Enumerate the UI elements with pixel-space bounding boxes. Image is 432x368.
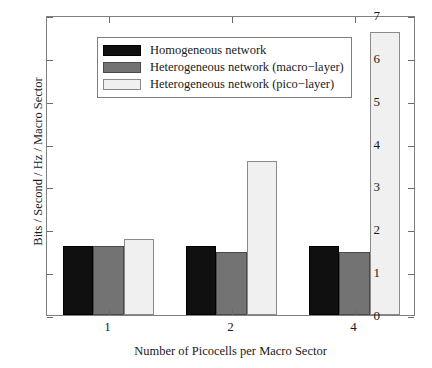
x-tick-top [355, 17, 356, 23]
legend-label-homogeneous: Homogeneous network [150, 44, 266, 57]
y-tick-right [408, 60, 414, 61]
y-tick [47, 317, 53, 318]
y-tick-label-2: 2 [358, 223, 380, 236]
x-tick-top [109, 17, 110, 23]
y-tick [47, 17, 53, 18]
x-tick [355, 309, 356, 315]
y-tick-right [408, 231, 414, 232]
y-tick [47, 103, 53, 104]
legend-label-pico-layer: Heterogeneous network (pico−layer) [150, 78, 334, 91]
bar-1-series-0 [63, 246, 94, 315]
y-axis-title: Bits / Second / Hz / Macro Sector [31, 42, 46, 282]
legend-swatch-homogeneous [103, 45, 141, 56]
legend: Homogeneous network Heterogeneous networ… [97, 37, 352, 98]
legend-item: Heterogeneous network (macro−layer) [103, 59, 344, 76]
bar-1-series-1 [93, 246, 124, 315]
x-tick-label-1: 1 [88, 320, 128, 334]
bar-4-series-1 [339, 252, 370, 315]
x-tick-top [232, 17, 233, 23]
y-tick [47, 188, 53, 189]
y-tick [47, 274, 53, 275]
y-tick-label-5: 5 [358, 95, 380, 108]
bar-2-series-0 [186, 246, 217, 315]
x-tick [232, 309, 233, 315]
x-tick-label-2: 2 [211, 320, 251, 334]
y-tick-right [408, 103, 414, 104]
y-tick-label-4: 4 [358, 138, 380, 151]
y-tick-right [408, 317, 414, 318]
y-tick-right [408, 188, 414, 189]
x-tick-label-4: 4 [334, 320, 374, 334]
bar-2-series-2 [247, 161, 278, 315]
y-tick-label-1: 1 [358, 266, 380, 279]
y-tick-right [408, 17, 414, 18]
legend-label-macro-layer: Heterogeneous network (macro−layer) [150, 61, 344, 74]
bar-4-series-0 [309, 246, 340, 315]
x-tick [109, 309, 110, 315]
legend-item: Heterogeneous network (pico−layer) [103, 76, 344, 93]
bar-1-series-2 [124, 239, 155, 315]
bar-2-series-1 [216, 252, 247, 315]
legend-item: Homogeneous network [103, 42, 344, 59]
y-tick [47, 60, 53, 61]
x-axis-title: Number of Picocells per Macro Sector [46, 344, 415, 359]
y-tick-label-6: 6 [358, 52, 380, 65]
legend-swatch-pico-layer [103, 79, 141, 90]
y-tick [47, 146, 53, 147]
bar-chart-figure: Homogeneous network Heterogeneous networ… [0, 0, 432, 368]
y-tick [47, 231, 53, 232]
legend-swatch-macro-layer [103, 62, 141, 73]
y-tick-label-3: 3 [358, 180, 380, 193]
y-tick-right [408, 274, 414, 275]
y-tick-right [408, 146, 414, 147]
y-tick-label-7: 7 [358, 9, 380, 22]
